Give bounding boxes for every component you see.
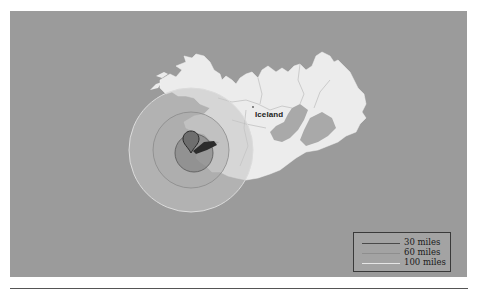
country-label-iceland: Iceland (255, 110, 283, 119)
horizontal-divider (10, 288, 468, 289)
legend-line-swatch (362, 253, 400, 254)
legend-line-swatch (362, 243, 400, 244)
map-viewport[interactable]: Iceland 30 miles 60 miles 100 miles (10, 11, 467, 277)
legend-label: 60 miles (404, 247, 440, 257)
legend-label: 30 miles (404, 237, 440, 247)
legend-item-100-miles: 100 miles (354, 258, 450, 268)
legend-line-swatch (362, 263, 400, 264)
legend-label: 100 miles (404, 257, 446, 267)
map-legend: 30 miles 60 miles 100 miles (353, 232, 451, 272)
